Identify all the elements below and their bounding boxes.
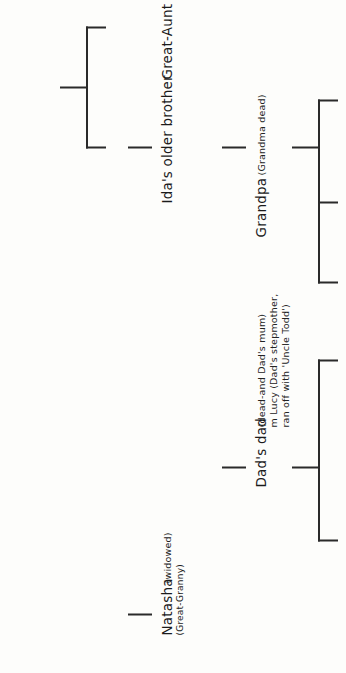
connector-ida-sibling-stem: [60, 86, 86, 88]
connector-grandpa-child-tansy: [318, 281, 338, 283]
node-grandpa-note: (Grandma dead): [256, 94, 267, 175]
connector-grandpa-child-susan: [318, 99, 338, 101]
connector-natasha-stem: [128, 613, 152, 615]
node-natasha-sub: (Great-Granny): [175, 564, 185, 635]
node-dads-dad-name: Dad's dad: [254, 418, 268, 488]
connector-dadsdad-child-geoffrey: [318, 539, 338, 541]
node-idas-older-brother: Ida's older brother: [160, 75, 174, 203]
connector-dadsdad-children-stem: [292, 466, 318, 468]
connector-grandpa-children-stem: [292, 146, 318, 148]
family-tree-page: Natasha (widowed) (Great-Granny) Ida's o…: [0, 0, 346, 673]
node-dads-dad-note: (dead-and Dad's mum): [256, 313, 267, 427]
family-tree-canvas: Natasha (widowed) (Great-Granny) Ida's o…: [0, 0, 346, 673]
node-grandpa-name: Grandpa: [254, 177, 268, 237]
connector-grandpa-stem: [222, 146, 246, 148]
connector-dadsdad-children-bar: [318, 359, 320, 541]
connector-ida-sibling-drop-right: [86, 26, 106, 28]
connector-dadsdad-child-james: [318, 359, 338, 361]
node-dads-dad-note3: ran off with 'Uncle Todd'): [280, 304, 291, 427]
node-natasha-name: Natasha: [160, 578, 174, 635]
node-great-aunt-ida: Great-Aunt Ida: [160, 0, 174, 79]
connector-grandpa-child-tristram: [318, 201, 338, 203]
connector-grandpa-children-bar: [318, 99, 320, 283]
node-dads-dad-note2: m Lucy (Dad's stepmother,: [268, 293, 279, 427]
node-natasha-note: (widowed): [162, 532, 173, 583]
connector-dads-dad-stem: [222, 466, 246, 468]
connector-idas-brother-stem: [128, 146, 152, 148]
connector-ida-sibling-drop-left: [86, 146, 106, 148]
connector-ida-sibling-bar: [86, 26, 88, 148]
